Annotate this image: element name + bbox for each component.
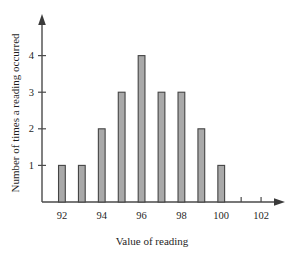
y-axis-arrow-icon (38, 14, 46, 25)
y-tick-label-1: 1 (29, 160, 34, 171)
y-axis-title: Number of times a reading occurred (9, 33, 21, 193)
x-tick-label-102: 102 (253, 210, 269, 221)
x-tick-label-92: 92 (57, 210, 68, 221)
bar-100 (218, 165, 225, 202)
bars (59, 56, 225, 202)
x-tick-label-100: 100 (213, 210, 229, 221)
bar-93 (78, 165, 85, 202)
histogram-chart: 1234 92949698100102 Value of reading Num… (0, 0, 294, 259)
bar-92 (59, 165, 66, 202)
x-axis-tick-labels: 92949698100102 (57, 210, 269, 221)
bar-94 (98, 129, 105, 202)
y-tick-label-3: 3 (29, 87, 34, 98)
x-axis-arrow-icon (274, 198, 285, 206)
bar-97 (158, 92, 165, 202)
y-axis-tick-labels: 1234 (29, 50, 35, 171)
bar-98 (178, 92, 185, 202)
bar-99 (198, 129, 205, 202)
chart-canvas: 1234 92949698100102 Value of reading Num… (0, 0, 294, 259)
x-tick-label-94: 94 (96, 210, 107, 221)
y-tick-label-2: 2 (29, 123, 34, 134)
x-tick-label-98: 98 (176, 210, 187, 221)
x-axis-title: Value of reading (116, 235, 189, 247)
bar-95 (118, 92, 125, 202)
bar-96 (138, 56, 145, 202)
x-tick-label-96: 96 (136, 210, 147, 221)
y-tick-label-4: 4 (29, 50, 35, 61)
